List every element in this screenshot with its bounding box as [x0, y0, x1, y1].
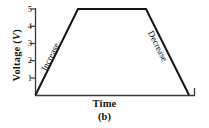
y-tick-label-5: 5	[20, 5, 32, 14]
y-axis-title-text: Voltage (	[11, 40, 22, 81]
voltage-time-figure: 5 4 3 2 1 Voltage (V) Increase Decrease …	[0, 0, 209, 128]
panel-caption: (b)	[0, 112, 209, 123]
y-axis-unit-symbol: V	[11, 33, 22, 40]
y-axis-title-close-paren: )	[11, 29, 22, 33]
x-axis-title: Time	[0, 99, 209, 110]
y-axis-title: Voltage (V)	[12, 16, 23, 94]
